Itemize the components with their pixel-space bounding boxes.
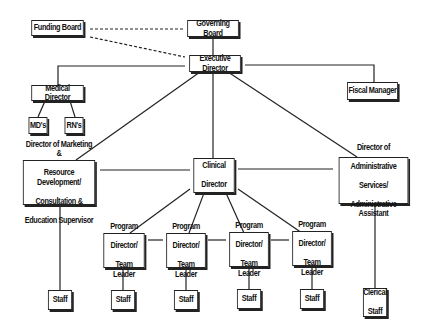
rns-label: RN's	[67, 121, 82, 131]
governing-board-box: Governing Board	[187, 20, 239, 37]
director-marketing-line-4: Education Supervisor	[24, 216, 95, 226]
program-director-box-3: Program Director/ Team Leader	[229, 232, 269, 267]
program-director-box-2: Program Director/ Team Leader	[166, 233, 206, 268]
staff-box-1: Staff	[111, 290, 135, 310]
executive-director-box: Executive Director	[189, 55, 241, 72]
funding-board-box: Funding Board	[31, 20, 83, 36]
program-director-line-3: Team Leader	[293, 258, 331, 277]
staff-label: Staff	[116, 295, 131, 305]
program-director-line-3: Team Leader	[104, 260, 144, 279]
program-director-line-2: Director/	[230, 240, 268, 250]
director-admin-box: Director of Administrative Services/ Adm…	[339, 157, 409, 204]
director-admin-line-2: Administrative	[340, 162, 408, 172]
program-director-line-3: Team Leader	[167, 260, 205, 279]
director-admin-line-4: Administrative Assistant	[340, 200, 408, 219]
director-marketing-line-3: Consultation &	[24, 197, 95, 207]
program-director-box-4: Program Director/ Team Leader	[292, 231, 332, 266]
program-director-line-2: Director/	[293, 239, 331, 249]
director-admin-line-3: Services/	[340, 181, 408, 191]
staff-label: Staff	[53, 295, 68, 305]
medical-director-box: Medical Director	[31, 85, 83, 101]
program-director-line-1: Program	[293, 220, 331, 230]
director-admin-line-1: Director of	[340, 143, 408, 153]
clinical-director-box: Clinical Director	[193, 158, 234, 193]
program-director-box-1: Program Director/ Team Leader	[103, 233, 144, 268]
staff-box-3: Staff	[237, 289, 261, 309]
program-director-line-2: Director/	[104, 241, 144, 251]
staff-label: Staff	[305, 294, 320, 304]
fiscal-manager-label: Fiscal Manager	[348, 86, 396, 96]
staff-box-marketing: Staff	[48, 290, 72, 310]
staff-label: Staff	[242, 294, 257, 304]
staff-box-2: Staff	[174, 290, 198, 310]
program-director-line-3: Team Leader	[230, 259, 268, 278]
executive-director-label: Executive Director	[190, 54, 240, 73]
clinical-director-line-1: Clinical	[201, 161, 226, 171]
clerical-staff-box: Clerical Staff	[363, 288, 387, 317]
staff-box-4: Staff	[300, 289, 324, 309]
clerical-staff-line-2: Staff	[363, 307, 387, 317]
clerical-staff-line-1: Clerical	[363, 288, 387, 298]
medical-director-label: Medical Director	[32, 84, 83, 103]
director-marketing-line-2: Resource Development/	[24, 168, 95, 187]
funding-board-label: Funding Board	[34, 23, 82, 33]
program-director-line-2: Director/	[167, 241, 205, 251]
program-director-line-1: Program	[167, 222, 205, 232]
program-director-line-1: Program	[230, 221, 268, 231]
mds-label: MD's	[30, 121, 46, 131]
clinical-director-line-2: Director	[201, 180, 226, 190]
staff-label: Staff	[179, 295, 194, 305]
dashed-line-funding-executive	[90, 37, 185, 57]
director-marketing-box: Director of Marketing & Resource Develop…	[23, 160, 95, 205]
director-marketing-line-1: Director of Marketing &	[24, 140, 95, 159]
fiscal-manager-box: Fiscal Manager	[347, 82, 398, 100]
program-director-line-1: Program	[104, 222, 144, 232]
governing-board-label: Governing Board	[188, 19, 238, 38]
